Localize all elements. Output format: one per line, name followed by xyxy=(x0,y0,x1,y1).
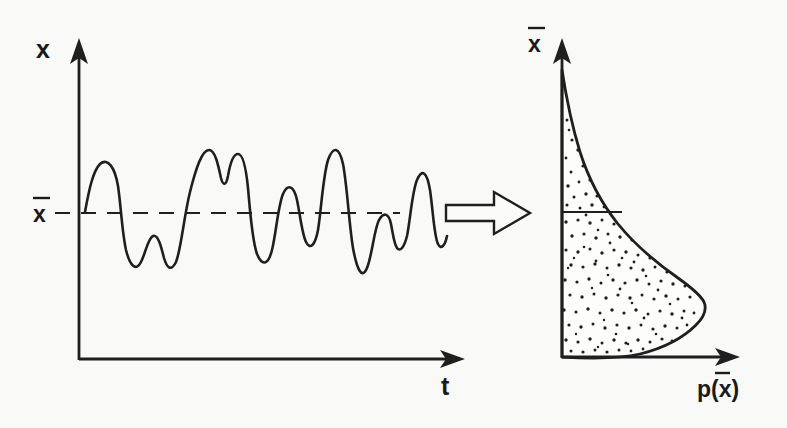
figure-svg: x x t xyxy=(0,0,787,428)
implies-arrow-icon xyxy=(446,192,530,234)
figure-container: x x t xyxy=(0,0,787,428)
mean-line-label: x xyxy=(33,201,46,227)
right-panel-group: x p(x) xyxy=(528,28,740,402)
transform-arrow-group xyxy=(446,192,530,234)
right-x-axis-label: p(x) xyxy=(697,376,739,402)
time-series-signal-curve xyxy=(85,150,447,273)
left-panel-group: x x t xyxy=(33,35,465,400)
density-curve-area xyxy=(562,70,705,358)
left-x-axis-label: t xyxy=(441,372,450,400)
left-y-axis-label: x xyxy=(36,35,50,63)
right-y-axis-label: x xyxy=(528,31,541,57)
